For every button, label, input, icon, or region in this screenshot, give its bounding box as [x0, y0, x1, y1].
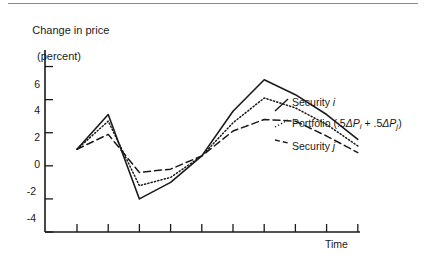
- y-tick-marks: [45, 67, 53, 232]
- leader-line-security-j: [275, 140, 288, 143]
- chart-plot-area: [0, 0, 431, 266]
- x-tick-marks: [77, 224, 358, 232]
- series-line-security-i: [77, 80, 358, 199]
- series-group: [77, 80, 358, 199]
- figure-container: Change in price (percent) 6 4 2 0 -2 -4 …: [0, 0, 431, 266]
- axes-group: [45, 50, 360, 232]
